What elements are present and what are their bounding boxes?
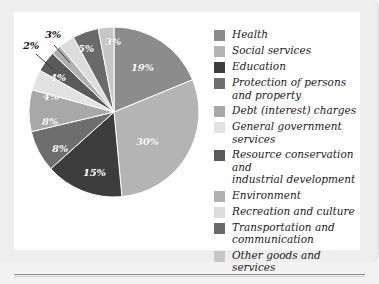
legend-color-swatch: [214, 78, 225, 89]
pie-percent-label: 8%: [52, 143, 68, 154]
pie-percent-label: 2%: [23, 40, 39, 51]
legend-item: Recreation and culture: [214, 205, 364, 218]
legend-color-swatch: [214, 150, 225, 161]
legend-item-label: Transportation and communication: [232, 221, 335, 246]
legend-item-label: Social services: [232, 44, 311, 57]
pie-slices: [29, 27, 199, 197]
pie-percent-label: 30%: [136, 136, 159, 147]
legend-item-label: Resource conservation and industrial dev…: [232, 148, 364, 186]
pie-percent-label: 19%: [131, 62, 154, 73]
legend-item-label: Protection of persons and property: [232, 76, 346, 101]
pie-percent-label: 3%: [105, 36, 121, 47]
pie-percent-label: 4%: [43, 91, 59, 102]
pie-percent-label: 3%: [45, 29, 61, 40]
legend-color-swatch: [214, 106, 225, 117]
legend-item: Debt (interest) charges: [214, 104, 364, 117]
chart-screenshot: 19%30%15%8%8%4%4%2%3%5%3% HealthSocial s…: [0, 0, 379, 284]
legend-color-swatch: [214, 122, 225, 133]
legend-item: Transportation and communication: [214, 221, 364, 246]
legend-item-label: Environment: [232, 189, 301, 202]
legend-item: General government services: [214, 120, 364, 145]
legend-item-label: General government services: [232, 120, 364, 145]
legend-color-swatch: [214, 191, 225, 202]
legend-color-swatch: [214, 46, 225, 57]
pie-chart-svg: [14, 12, 214, 250]
legend-item-label: Education: [232, 60, 286, 73]
legend-color-swatch: [214, 223, 225, 234]
legend-item: Social services: [214, 44, 364, 57]
legend-item: Resource conservation and industrial dev…: [214, 148, 364, 186]
pie-percent-label: 5%: [78, 43, 94, 54]
legend-color-swatch: [214, 251, 225, 262]
pie-chart: 19%30%15%8%8%4%4%2%3%5%3%: [14, 12, 214, 250]
legend-item-label: Recreation and culture: [232, 205, 355, 218]
legend-item: Education: [214, 60, 364, 73]
legend-item-label: Health: [232, 28, 268, 41]
legend-color-swatch: [214, 62, 225, 73]
legend-color-swatch: [214, 207, 225, 218]
legend-item: Other goods and services: [214, 249, 364, 274]
legend-item-label: Debt (interest) charges: [232, 104, 356, 117]
chart-legend: HealthSocial servicesEducationProtection…: [214, 28, 364, 277]
legend-item: Protection of persons and property: [214, 76, 364, 101]
footer-rule-shadow: [14, 276, 365, 277]
legend-color-swatch: [214, 30, 225, 41]
legend-item: Environment: [214, 189, 364, 202]
pie-percent-label: 15%: [83, 167, 106, 178]
footer-rule: [14, 274, 365, 275]
pie-percent-label: 4%: [50, 72, 66, 83]
pie-percent-label: 8%: [42, 116, 58, 127]
legend-item-label: Other goods and services: [232, 249, 364, 274]
legend-item: Health: [214, 28, 364, 41]
